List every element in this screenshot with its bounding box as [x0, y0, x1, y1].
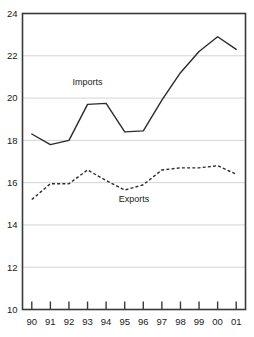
series-label-imports: Imports [73, 77, 104, 87]
x-tick-label: 97 [157, 316, 168, 327]
x-tick-label: 96 [138, 316, 149, 327]
x-tick-label: 93 [82, 316, 93, 327]
x-tick-label: 94 [101, 316, 112, 327]
x-tick-label: 99 [194, 316, 205, 327]
x-tick-label: 91 [45, 316, 56, 327]
x-tick-label: 90 [27, 316, 38, 327]
series-line-imports [32, 37, 236, 145]
gridlines [23, 56, 246, 267]
x-axis-ticks [32, 302, 236, 310]
y-tick-label: 22 [7, 50, 18, 61]
plot-frame [23, 14, 246, 310]
x-tick-label: 95 [119, 316, 130, 327]
chart-canvas: 1012141618202224 90919293949596979899000… [0, 0, 254, 337]
x-tick-label: 92 [64, 316, 75, 327]
y-tick-label: 24 [7, 8, 18, 19]
x-axis-labels: 909192939495969798990001 [27, 316, 242, 327]
x-tick-label: 98 [175, 316, 186, 327]
x-tick-label: 01 [231, 316, 242, 327]
line-chart: 1012141618202224 90919293949596979899000… [0, 0, 254, 337]
x-tick-label: 00 [212, 316, 223, 327]
y-tick-label: 16 [7, 177, 18, 188]
y-tick-label: 14 [7, 219, 18, 230]
y-tick-label: 10 [7, 304, 18, 315]
y-tick-label: 20 [7, 92, 18, 103]
y-tick-label: 18 [7, 135, 18, 146]
y-axis-labels: 1012141618202224 [7, 8, 18, 315]
series-label-exports: Exports [119, 194, 150, 204]
y-tick-label: 12 [7, 262, 18, 273]
